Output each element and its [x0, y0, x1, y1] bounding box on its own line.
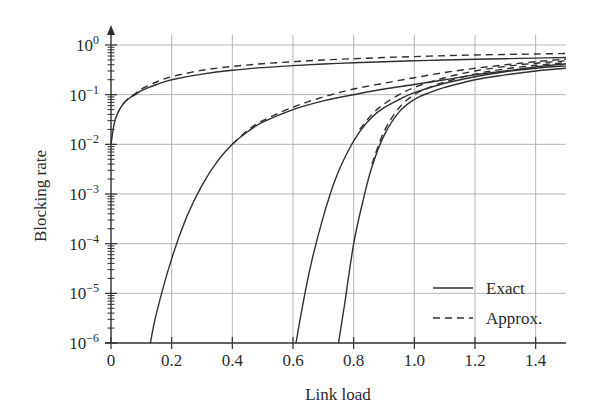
x-tick-label: 0.2 — [161, 351, 182, 370]
y-tick-label: 10−4 — [69, 232, 99, 254]
x-axis-label: Link load — [305, 385, 371, 404]
x-tick-label: 0.4 — [222, 351, 244, 370]
exact-curve-4 — [339, 68, 567, 343]
y-tick-label: 10−5 — [69, 281, 99, 303]
legend-approx-label: Approx. — [486, 309, 542, 328]
exact-curve-2 — [150, 64, 566, 343]
y-tick-label: 10−1 — [69, 83, 99, 105]
x-tick-label: 1.4 — [525, 351, 547, 370]
approx-curve-2 — [232, 59, 566, 144]
x-tick-label: 0.6 — [282, 351, 303, 370]
legend: Exact Approx. — [433, 279, 542, 328]
y-tick-label: 10−2 — [69, 132, 99, 154]
x-axis-ticks: 00.20.40.60.81.01.21.4 — [107, 337, 547, 370]
exact-curve-3 — [296, 66, 566, 343]
chart-canvas: 10−610−510−410−310−210−1100 00.20.40.60.… — [0, 0, 611, 415]
x-tick-label: 1.0 — [404, 351, 425, 370]
y-tick-label: 100 — [76, 33, 99, 55]
y-axis-arrow-icon — [107, 25, 115, 35]
y-axis-label: Blocking rate — [31, 150, 50, 242]
x-tick-label: 0 — [107, 351, 116, 370]
y-axis-ticks: 10−610−510−410−310−210−1100 — [69, 33, 117, 353]
legend-exact-label: Exact — [486, 279, 525, 298]
x-tick-label: 0.8 — [343, 351, 364, 370]
x-tick-label: 1.2 — [464, 351, 485, 370]
y-tick-label: 10−6 — [69, 331, 99, 353]
y-tick-label: 10−3 — [69, 182, 99, 204]
data-curves — [111, 54, 566, 344]
